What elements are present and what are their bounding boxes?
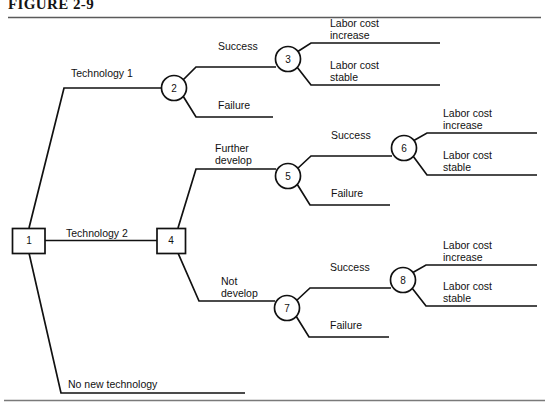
edge-success-node5 (297, 156, 392, 169)
label-no-new-technology: No new technology (68, 379, 157, 391)
edge-labor-increase-node3 (297, 43, 440, 52)
edge-technology-1 (29, 88, 162, 228)
edge-no-new-technology (29, 253, 245, 393)
label-technology-2: Technology 2 (66, 228, 128, 240)
node-2-label: 2 (161, 83, 187, 94)
edge-success-node2 (183, 67, 276, 80)
label-not-develop: Not develop (221, 276, 258, 299)
label-success-node5: Success (331, 130, 371, 142)
label-failure-node5: Failure (331, 188, 363, 200)
label-labor-stable-node6: Labor cost stable (443, 150, 492, 173)
label-labor-stable-node8: Labor cost stable (443, 281, 492, 304)
label-labor-stable-node3: Labor cost stable (330, 60, 379, 83)
label-failure-node2: Failure (218, 100, 250, 112)
edge-success-node7 (296, 288, 391, 301)
node-5-label: 5 (275, 171, 301, 182)
node-4-label: 4 (158, 235, 184, 246)
node-3-label: 3 (275, 54, 301, 65)
node-1-label: 1 (16, 235, 42, 246)
label-labor-increase-node3: Labor cost increase (330, 18, 379, 41)
node-6-label: 6 (391, 143, 417, 154)
edge-labor-increase-node8 (412, 265, 537, 273)
label-failure-node7: Failure (330, 320, 362, 332)
label-success-node7: Success (330, 262, 370, 274)
label-further-develop: Further develop (215, 143, 252, 166)
node-7-label: 7 (274, 303, 300, 314)
label-technology-1: Technology 1 (71, 68, 133, 80)
edge-labor-increase-node6 (413, 133, 537, 141)
node-8-label: 8 (390, 275, 416, 286)
figure-decision-tree: FIGURE 2-9 (0, 0, 549, 415)
edge-further-develop (178, 169, 276, 228)
label-labor-increase-node6: Labor cost increase (443, 108, 492, 131)
label-labor-increase-node8: Labor cost increase (443, 240, 492, 263)
label-success-node2: Success (218, 41, 258, 53)
